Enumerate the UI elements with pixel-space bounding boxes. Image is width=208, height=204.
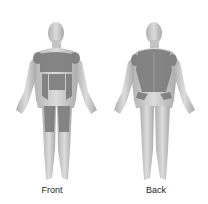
back-figure: Back: [104, 0, 208, 204]
back-body-icon: [104, 0, 208, 204]
front-label: Front: [0, 185, 104, 195]
back-label: Back: [104, 185, 208, 195]
front-figure: Front: [0, 0, 104, 204]
front-body-icon: [0, 0, 104, 204]
